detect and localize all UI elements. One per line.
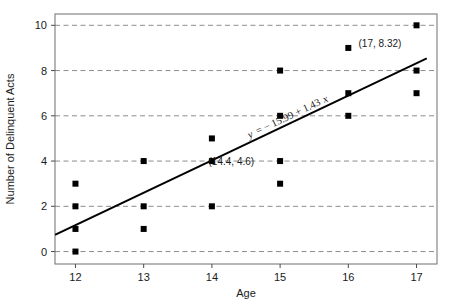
- data-point: [72, 181, 78, 187]
- data-point: [277, 158, 283, 164]
- data-point: [277, 68, 283, 74]
- data-point: [72, 226, 78, 232]
- data-point: [414, 68, 420, 74]
- x-tick-label-15: 15: [274, 271, 286, 283]
- data-point: [414, 90, 420, 96]
- data-point: [345, 45, 351, 51]
- data-point: [72, 203, 78, 209]
- data-point: [414, 22, 420, 28]
- x-tick-label-17: 17: [410, 271, 422, 283]
- y-tick-label-8: 8: [41, 65, 47, 77]
- data-point: [209, 135, 215, 141]
- y-tick-label-10: 10: [35, 19, 47, 31]
- mean-point-label: (14.4, 4.6): [209, 156, 255, 167]
- data-point: [72, 249, 78, 255]
- data-point: [277, 181, 283, 187]
- data-point: [141, 226, 147, 232]
- y-tick-label-6: 6: [41, 110, 47, 122]
- chart-canvas: 0246810 121314151617 y = − 15.99 + 1.43 …: [0, 0, 457, 306]
- predicted-point-label: (17, 8.32): [359, 38, 402, 49]
- data-point: [141, 203, 147, 209]
- x-tick-label-13: 13: [138, 271, 150, 283]
- data-point: [209, 203, 215, 209]
- y-axis-group: 0246810: [35, 19, 55, 257]
- y-tick-label-0: 0: [41, 246, 47, 258]
- plot-area-background: [55, 14, 437, 264]
- y-tick-label-2: 2: [41, 200, 47, 212]
- y-tick-label-4: 4: [41, 155, 47, 167]
- data-point: [345, 90, 351, 96]
- x-tick-label-12: 12: [69, 271, 81, 283]
- x-tick-label-14: 14: [206, 271, 218, 283]
- x-axis-title: Age: [236, 287, 256, 299]
- data-point: [141, 158, 147, 164]
- data-point: [345, 113, 351, 119]
- x-axis-group: 121314151617: [69, 264, 422, 283]
- y-axis-title: Number of Delinquent Acts: [4, 73, 16, 204]
- scatter-plot-figure: 0246810 121314151617 y = − 15.99 + 1.43 …: [0, 0, 457, 306]
- x-tick-label-16: 16: [342, 271, 354, 283]
